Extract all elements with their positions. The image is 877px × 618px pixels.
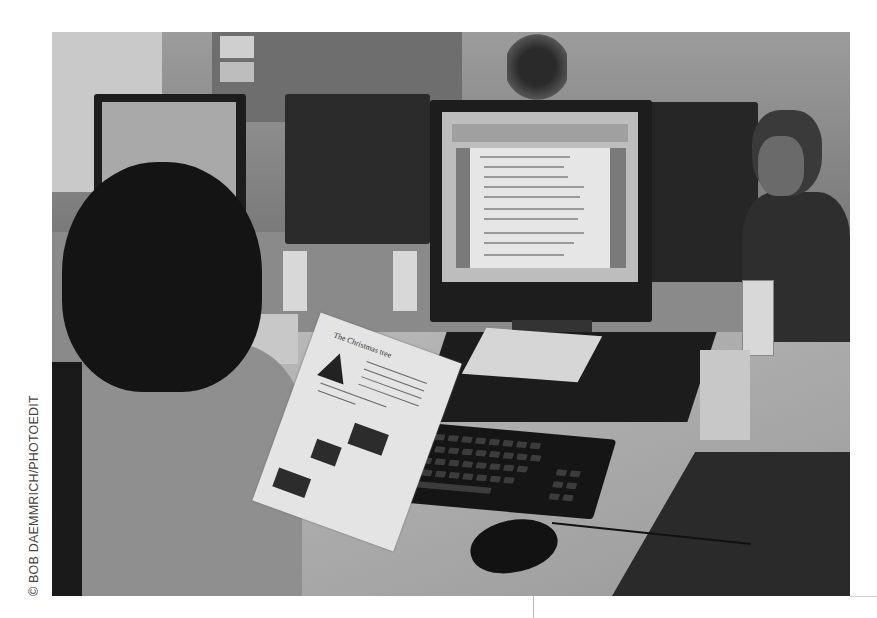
text-line <box>484 218 578 220</box>
text-line <box>484 242 574 244</box>
backpack-strap <box>52 362 82 596</box>
divider-line <box>533 596 534 618</box>
posted-paper <box>220 36 254 58</box>
word-processor-toolbar <box>452 124 628 142</box>
text-line <box>484 166 564 168</box>
sign-stand <box>700 350 750 440</box>
student-foreground-head <box>62 162 262 392</box>
back-monitor <box>285 94 430 244</box>
christmas-tree <box>507 32 567 102</box>
text-line <box>484 208 584 210</box>
posted-paper <box>220 62 254 82</box>
main-monitor-screen <box>442 112 638 282</box>
student-right-face <box>758 136 804 196</box>
main-monitor <box>430 100 652 322</box>
shape-square <box>310 439 341 467</box>
shape-square <box>348 423 389 456</box>
lab-sign <box>282 250 308 312</box>
text-line <box>484 254 564 256</box>
text-line <box>484 232 584 234</box>
divider-line <box>850 596 877 597</box>
text-line <box>484 176 568 178</box>
paper-on-computer <box>462 328 602 382</box>
photo-credit: © BOB DAEMMRICH/PHOTOEDIT <box>27 395 41 596</box>
shape-square <box>272 468 311 498</box>
text-line <box>480 156 570 158</box>
classroom-photo: The Christmas tree <box>52 32 850 596</box>
lab-sign <box>392 250 418 312</box>
text-line <box>484 186 584 188</box>
document-margin-right <box>610 148 626 268</box>
text-line <box>484 196 580 198</box>
tree-icon <box>317 349 353 385</box>
lab-sign <box>742 280 774 356</box>
document-margin-left <box>456 148 470 268</box>
document-page <box>470 148 610 268</box>
